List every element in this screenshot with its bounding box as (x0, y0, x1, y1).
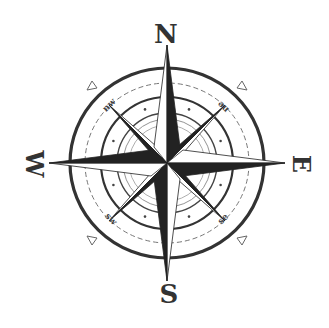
compass-rose: nw ne sw se N S E W (0, 0, 329, 328)
compass-rose-drawing: nw ne sw se N S E W (0, 0, 329, 328)
label-south: S (160, 279, 179, 309)
label-north: N (154, 19, 178, 49)
label-east: E (287, 155, 316, 173)
cardinal-points (49, 45, 285, 281)
label-west: W (20, 150, 49, 179)
